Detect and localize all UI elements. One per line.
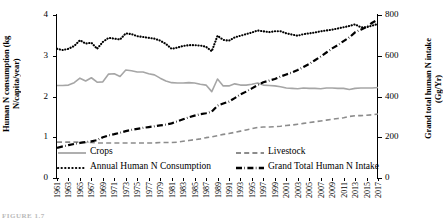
x-axis-tick [229,178,230,181]
x-axis-tick-label: 1987 [202,182,211,198]
x-axis-tick-label: 2005 [305,182,314,198]
x-axis-tick-label: 1965 [76,182,85,198]
x-axis-tick [309,178,310,181]
x-axis-tick-label: 1997 [259,182,268,198]
x-axis-tick [114,178,115,181]
x-axis-tick-label: 2017 [374,182,383,198]
x-axis-tick-label: 2015 [363,182,372,198]
legend-swatch [57,147,87,159]
x-axis-tick-label: 2003 [294,182,303,198]
y-axis-right-tick-label: 800 [385,9,411,19]
x-axis-tick-label: 1961 [53,182,62,198]
x-axis-tick [103,178,104,181]
x-axis-tick [137,178,138,181]
y-axis-left-tick-label: 4 [26,9,48,19]
legend-swatch [235,147,265,159]
y-axis-right-tick [378,97,382,98]
y-axis-left-tick-label: 0 [26,172,48,182]
y-axis-right-tick-label: 400 [385,91,411,101]
x-axis-tick-label: 2011 [340,182,349,198]
chart-legend: CropsLivestockAnnual Human N Consumption… [57,146,378,176]
x-axis-tick [149,178,150,181]
x-axis-tick [80,178,81,181]
x-axis-tick-label: 1991 [225,182,234,198]
x-axis-tick [263,178,264,181]
x-axis-tick [355,178,356,181]
x-axis-tick [195,178,196,181]
legend-label: Crops [90,146,113,156]
series-line-annual-human-n-consumption [57,24,378,51]
x-axis-tick [68,178,69,181]
x-axis-tick-label: 1969 [99,182,108,198]
y-axis-right-tick-label: 0 [385,172,411,182]
x-axis-tick [183,178,184,181]
y-axis-right-title: Grand total human N intake (Gg/Yr) [424,14,444,164]
legend-label: Annual Human N Consumption [90,161,211,171]
x-axis-tick [91,178,92,181]
y-axis-left-title: Human N consumption (kg N/capita/year) [2,8,22,160]
x-axis-tick-label: 1983 [179,182,188,198]
x-axis-tick [378,178,379,181]
figure-caption: FIGURE 1.7 [2,212,45,220]
x-axis-tick-label: 1967 [87,182,96,198]
x-axis-tick-label: 2007 [317,182,326,198]
series-line-livestock [57,114,378,143]
x-axis-tick [332,178,333,181]
y-axis-right-tick-label: 200 [385,131,411,141]
legend-label: Livestock [268,146,305,156]
x-axis-tick [126,178,127,181]
x-axis-tick [240,178,241,181]
x-axis-tick-label: 1989 [214,182,223,198]
x-axis-tick [206,178,207,181]
x-axis-origin-mark [53,178,59,179]
y-axis-left-tick-label: 2 [26,91,48,101]
figure-container: Human N consumption (kg N/capita/year) G… [0,0,445,220]
x-axis-tick-label: 1985 [191,182,200,198]
x-axis-tick [252,178,253,181]
x-axis-tick [286,178,287,181]
series-line-grand-total-human-n-intake [57,19,378,147]
legend-label: Grand Total Human N Intake [268,161,379,171]
x-axis-tick [218,178,219,181]
y-axis-right-tick-label: 600 [385,50,411,60]
x-axis-tick [172,178,173,181]
x-axis-tick [275,178,276,181]
x-axis-tick-label: 1963 [64,182,73,198]
x-axis-tick-label: 2009 [328,182,337,198]
legend-swatch [235,162,265,174]
legend-swatch [57,162,87,174]
x-axis-tick-label: 1977 [145,182,154,198]
x-axis-tick-label: 1973 [122,182,131,198]
x-axis-tick-label: 2013 [351,182,360,198]
x-axis-tick-label: 1981 [168,182,177,198]
y-axis-left-tick-label: 3 [26,50,48,60]
x-axis-tick-label: 1979 [156,182,165,198]
x-axis-tick [367,178,368,181]
x-axis-tick [344,178,345,181]
y-axis-right-tick [378,137,382,138]
x-axis-tick-label: 1993 [236,182,245,198]
x-axis-tick-label: 1995 [248,182,257,198]
x-axis-tick [298,178,299,181]
y-axis-right-tick [378,56,382,57]
x-axis-tick-label: 2001 [282,182,291,198]
x-axis-tick-label: 1975 [133,182,142,198]
y-axis-right-tick [378,15,382,16]
x-axis-tick-label: 1999 [271,182,280,198]
x-axis-tick-label: 1971 [110,182,119,198]
x-axis-tick [321,178,322,181]
series-line-crops [57,70,378,92]
y-axis-left-tick-label: 1 [26,131,48,141]
x-axis-tick [160,178,161,181]
